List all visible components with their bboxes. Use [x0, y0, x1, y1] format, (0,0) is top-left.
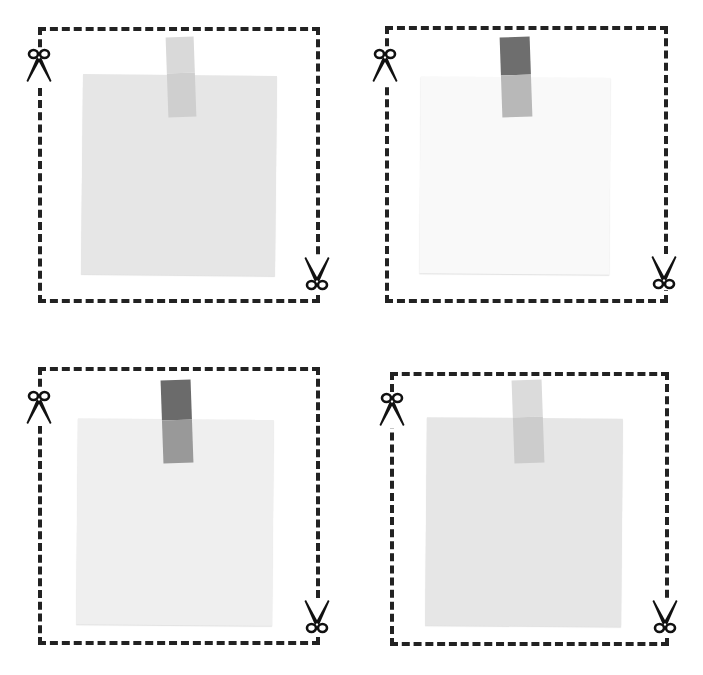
tape-top-segment [166, 37, 195, 74]
tape-top-segment [161, 380, 192, 421]
scissors-icon [302, 255, 332, 291]
washi-tape [500, 37, 533, 118]
tape-top-segment [512, 380, 543, 418]
washi-tape [166, 37, 197, 118]
washi-tape [161, 380, 194, 464]
tape-bottom-segment [167, 73, 197, 118]
scissors-icon [370, 48, 400, 84]
washi-tape [512, 380, 545, 464]
scissors-icon [650, 598, 680, 634]
scissors-icon [24, 48, 54, 84]
scissors-icon [302, 598, 332, 634]
tape-bottom-segment [501, 74, 532, 117]
scissors-icon [24, 390, 54, 426]
tape-bottom-segment [513, 416, 545, 463]
scissors-icon [649, 254, 679, 290]
scissors-icon [377, 392, 407, 428]
tape-top-segment [500, 37, 531, 76]
tape-bottom-segment [162, 419, 193, 463]
